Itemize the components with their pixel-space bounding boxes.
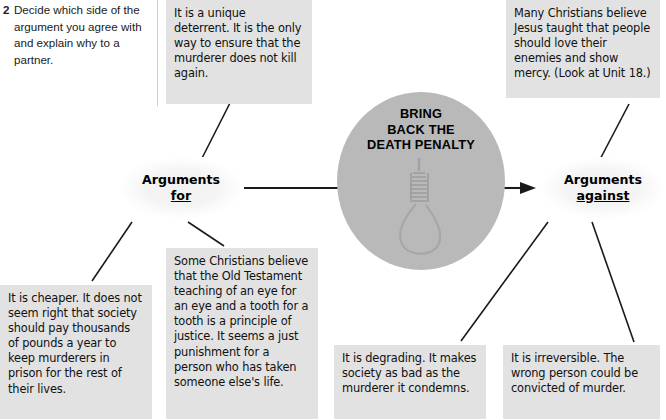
task-text: Decide which side of the argument you ag… [14, 2, 144, 96]
central-title-line-2: BACK THE [337, 122, 505, 138]
note-christians-mercy: Many Christians believe Jesus taught tha… [506, 0, 660, 98]
exercise-task-item: 2 Decide which side of the argument you … [0, 0, 150, 96]
note-cheaper: It is cheaper. It does not seem right th… [0, 285, 152, 420]
arguments-against-label: Arguments [564, 172, 642, 189]
node-arguments-against: Arguments against [540, 157, 666, 219]
connector-for-to-oldtestament [188, 222, 224, 246]
connector-for-to-cheaper [92, 222, 132, 281]
arguments-for-emphasis: for [171, 188, 191, 205]
central-title-line-1: BRING [337, 106, 505, 122]
column-divider [157, 0, 158, 106]
task-number: 2 [0, 2, 14, 96]
noose-icon [392, 158, 450, 262]
note-deterrent: It is a unique deterrent. It is the only… [166, 0, 312, 104]
arguments-against-emphasis: against [577, 188, 630, 205]
note-degrading: It is degrading. It makes society as bad… [334, 345, 486, 420]
note-irreversible: It is irreversible. The wrong person cou… [503, 345, 660, 420]
connector-against-to-irreversible [592, 222, 634, 342]
central-title-line-3: DEATH PENALTY [337, 137, 505, 153]
note-old-testament: Some Christians believe that the Old Tes… [166, 248, 318, 420]
arguments-for-label: Arguments [142, 172, 220, 189]
node-arguments-for: Arguments for [118, 157, 244, 219]
central-title: BRING BACK THE DEATH PENALTY [337, 106, 505, 153]
